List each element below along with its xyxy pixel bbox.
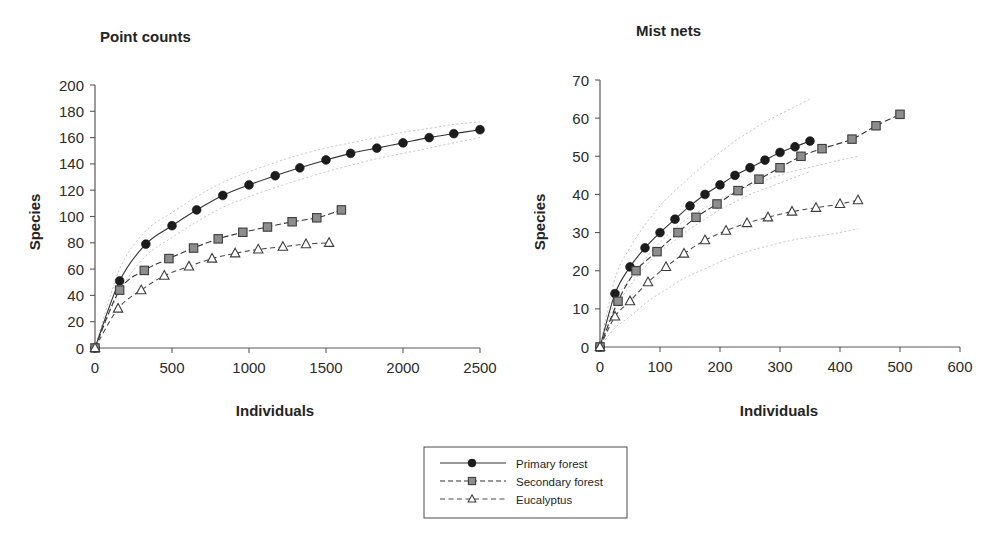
marker-secondary-forest (288, 218, 296, 226)
marker-secondary-forest (263, 223, 271, 231)
marker-primary-forest (245, 181, 254, 190)
panel-title-right: Mist nets (636, 22, 701, 39)
marker-primary-forest (671, 215, 680, 224)
x-tick-label: 400 (827, 358, 852, 375)
legend-label-primary-forest: Primary forest (516, 458, 588, 470)
marker-secondary-forest (776, 164, 784, 172)
y-tick-label: 80 (67, 234, 84, 251)
y-axis-title-left: Species (26, 194, 43, 251)
marker-secondary-forest (896, 110, 904, 118)
marker-primary-forest (141, 240, 150, 249)
marker-secondary-forest (189, 244, 197, 252)
legend-marker-secondary-forest (468, 477, 475, 484)
marker-secondary-forest (848, 135, 856, 143)
y-tick-label: 60 (67, 261, 84, 278)
legend-marker-primary-forest (468, 459, 476, 467)
marker-secondary-forest (692, 213, 700, 221)
marker-secondary-forest (755, 175, 763, 183)
marker-primary-forest (192, 206, 201, 215)
marker-primary-forest (641, 243, 650, 252)
species-accumulation-figure: Point counts Species Individuals 0204060… (0, 0, 995, 538)
marker-secondary-forest (614, 297, 622, 305)
x-tick-label: 500 (887, 358, 912, 375)
marker-primary-forest (716, 180, 725, 189)
legend: Primary forestSecondary forestEucalyptus (424, 447, 627, 518)
legend-label-secondary-forest: Secondary forest (516, 476, 604, 488)
marker-primary-forest (346, 149, 355, 158)
marker-primary-forest (791, 142, 800, 151)
y-tick-label: 0 (76, 340, 84, 357)
y-tick-label: 120 (59, 182, 84, 199)
marker-primary-forest (372, 144, 381, 153)
y-tick-label: 20 (67, 313, 84, 330)
marker-secondary-forest (818, 144, 826, 152)
x-tick-label: 100 (647, 358, 672, 375)
y-tick-label: 200 (59, 77, 84, 94)
marker-secondary-forest (653, 247, 661, 255)
x-tick-label: 2500 (463, 359, 496, 376)
x-tick-label: 500 (159, 359, 184, 376)
marker-primary-forest (322, 156, 331, 165)
x-axis-title-left: Individuals (236, 402, 314, 419)
y-tick-label: 100 (59, 208, 84, 225)
y-tick-label: 20 (572, 262, 589, 279)
x-tick-label: 1500 (309, 359, 342, 376)
x-tick-label: 600 (947, 358, 972, 375)
marker-secondary-forest (797, 152, 805, 160)
marker-primary-forest (656, 228, 665, 237)
x-axis-title-right: Individuals (740, 402, 818, 419)
marker-primary-forest (168, 221, 177, 230)
marker-primary-forest (701, 190, 710, 199)
x-tick-label: 200 (707, 358, 732, 375)
y-tick-label: 160 (59, 129, 84, 146)
marker-secondary-forest (713, 200, 721, 208)
x-tick-label: 1000 (232, 359, 265, 376)
marker-primary-forest (731, 171, 740, 180)
x-tick-label: 2000 (386, 359, 419, 376)
marker-primary-forest (399, 138, 408, 147)
marker-primary-forest (806, 137, 815, 146)
y-tick-label: 70 (572, 72, 589, 89)
y-tick-label: 40 (572, 186, 589, 203)
marker-primary-forest (449, 129, 458, 138)
marker-primary-forest (746, 163, 755, 172)
marker-secondary-forest (632, 267, 640, 275)
y-tick-label: 60 (572, 110, 589, 127)
marker-secondary-forest (872, 122, 880, 130)
marker-primary-forest (425, 133, 434, 142)
marker-primary-forest (271, 171, 280, 180)
y-tick-label: 50 (572, 148, 589, 165)
marker-secondary-forest (165, 254, 173, 262)
panel-title-left: Point counts (100, 28, 191, 45)
marker-secondary-forest (140, 266, 148, 274)
marker-secondary-forest (313, 214, 321, 222)
marker-primary-forest (776, 148, 785, 157)
y-tick-label: 0 (581, 339, 589, 356)
marker-secondary-forest (337, 206, 345, 214)
marker-secondary-forest (115, 286, 123, 294)
marker-secondary-forest (674, 228, 682, 236)
marker-primary-forest (115, 277, 124, 286)
y-tick-label: 140 (59, 155, 84, 172)
y-tick-label: 180 (59, 103, 84, 120)
x-tick-label: 0 (596, 358, 604, 375)
y-axis-title-right: Species (531, 194, 548, 251)
y-tick-label: 30 (572, 224, 589, 241)
y-tick-label: 40 (67, 287, 84, 304)
marker-secondary-forest (214, 235, 222, 243)
marker-primary-forest (295, 163, 304, 172)
legend-label-eucalyptus: Eucalyptus (516, 494, 573, 506)
marker-secondary-forest (239, 228, 247, 236)
marker-primary-forest (218, 191, 227, 200)
marker-primary-forest (686, 201, 695, 210)
x-tick-label: 0 (91, 359, 99, 376)
x-tick-label: 300 (767, 358, 792, 375)
y-tick-label: 10 (572, 300, 589, 317)
marker-secondary-forest (734, 186, 742, 194)
marker-primary-forest (476, 125, 485, 134)
marker-primary-forest (761, 156, 770, 165)
